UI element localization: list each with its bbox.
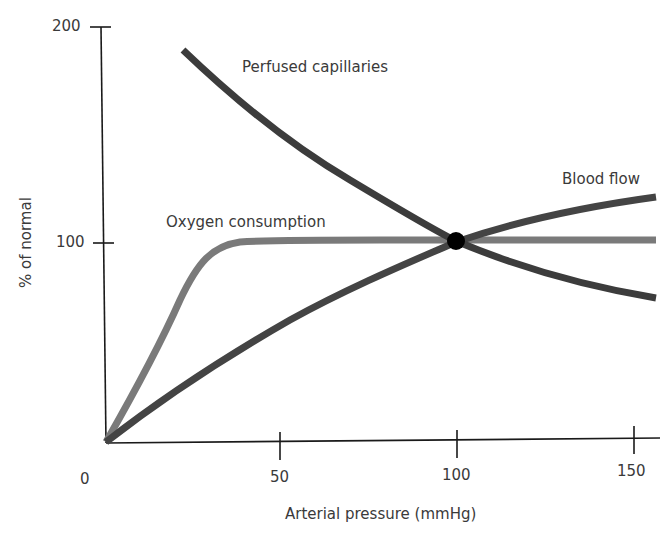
- blood-flow-label: Blood flow: [562, 170, 640, 188]
- x-axis-label: Arterial pressure (mmHg): [285, 505, 476, 523]
- y-axis: [101, 27, 106, 443]
- blood-flow-curve: [106, 197, 656, 442]
- oxygen-consumption-curve: [106, 240, 656, 442]
- oxygen-consumption-label: Oxygen consumption: [166, 213, 326, 231]
- intersection-point-marker: [447, 232, 465, 250]
- x-axis: [106, 438, 660, 443]
- x-tick-label-50: 50: [270, 468, 289, 486]
- chart-canvas: [0, 0, 670, 539]
- x-tick-label-0: 0: [80, 470, 90, 488]
- x-tick-label-100: 100: [442, 466, 471, 484]
- y-tick-label-200: 200: [52, 17, 81, 35]
- perfused-capillaries-label: Perfused capillaries: [242, 58, 388, 76]
- y-tick-label-100: 100: [56, 233, 85, 251]
- y-axis-label: % of normal: [17, 197, 35, 288]
- x-tick-label-150: 150: [617, 462, 646, 480]
